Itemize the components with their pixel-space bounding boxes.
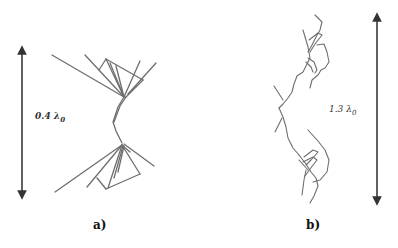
dimension-value-a: 0.4 [35, 111, 51, 121]
wire-antenna-a [52, 55, 156, 192]
antenna-figure [0, 0, 398, 248]
dimension-value-b: 1.3 [329, 104, 343, 114]
dimension-subscript-a: 0 [60, 115, 65, 124]
dimension-label-b: 1.3 λ0 [329, 104, 356, 117]
panel-label-b: b) [306, 218, 320, 232]
panel-label-a: a) [93, 218, 106, 232]
dimension-subscript-b: 0 [352, 109, 356, 117]
wire-antenna-b [274, 15, 329, 203]
dimension-label-a: 0.4 λ0 [35, 111, 65, 124]
